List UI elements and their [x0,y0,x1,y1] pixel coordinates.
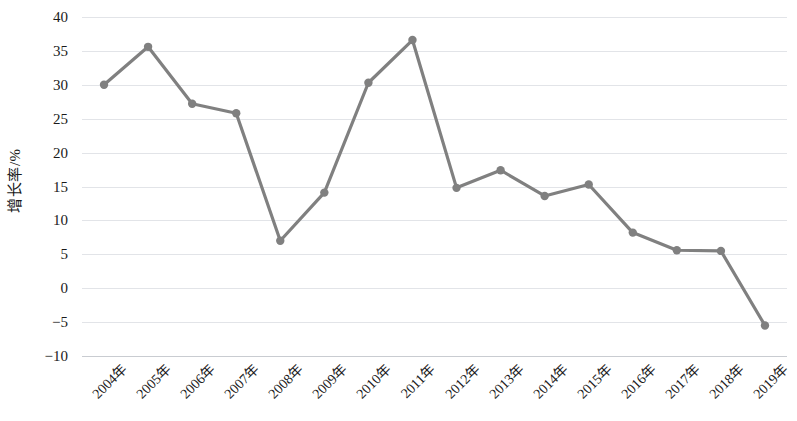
data-point-marker [100,81,108,89]
series-layer [82,17,787,356]
y-axis-tick-label: −5 [52,315,68,330]
x-axis-tick-label: 2007年 [223,362,263,402]
series-line [104,40,765,325]
y-axis-tick-label: 40 [53,10,68,25]
data-point-marker [232,109,240,117]
plot-area [82,17,787,356]
data-point-marker [408,36,416,44]
data-point-marker [144,43,152,51]
data-point-marker [585,180,593,188]
x-axis-tick-label: 2019年 [751,362,791,402]
data-point-marker [320,188,328,196]
x-axis-tick-label: 2016年 [619,362,659,402]
x-axis-tick-label: 2015年 [575,362,615,402]
y-axis-title-label: 增长率/% [3,148,24,212]
x-axis-tick-label: 2018年 [707,362,747,402]
x-axis-tick-label: 2014年 [531,362,571,402]
data-point-marker [761,321,769,329]
y-axis-title: 增长率/% [0,0,26,360]
y-axis-tick-label: 10 [53,213,68,228]
x-axis-tick-labels: 2004年2005年2006年2007年2008年2009年2010年2011年… [82,356,787,421]
y-axis-tick-label: −10 [45,349,68,364]
x-axis-tick-label: 2012年 [443,362,483,402]
x-axis-tick-label: 2004年 [90,362,130,402]
x-axis-tick-label: 2005年 [134,362,174,402]
y-axis-tick-label: 5 [61,247,69,262]
x-axis-tick-label: 2017年 [663,362,703,402]
data-point-marker [717,247,725,255]
y-axis-tick-label: 20 [53,145,68,160]
x-axis-tick-label: 2008年 [267,362,307,402]
x-axis-tick-label: 2011年 [399,362,438,401]
data-point-marker [496,166,504,174]
y-axis-tick-label: 0 [61,281,69,296]
y-axis-tick-label: 35 [53,43,68,58]
data-point-marker [188,100,196,108]
x-axis-tick-label: 2009年 [311,362,351,402]
growth-rate-line-chart: 增长率/% 4035302520151050−5−10 2004年2005年20… [0,0,797,421]
data-point-marker [673,246,681,254]
y-axis-tick-labels: 4035302520151050−5−10 [26,0,74,421]
data-point-marker [540,192,548,200]
data-point-marker [276,237,284,245]
data-point-marker [364,79,372,87]
x-axis-tick-label: 2010年 [355,362,395,402]
y-axis-tick-label: 30 [53,77,68,92]
data-point-marker [629,228,637,236]
x-axis-tick-label: 2013年 [487,362,527,402]
y-axis-tick-label: 15 [53,179,68,194]
x-axis-tick-label: 2006年 [178,362,218,402]
data-point-marker [452,184,460,192]
y-axis-tick-label: 25 [53,111,68,126]
